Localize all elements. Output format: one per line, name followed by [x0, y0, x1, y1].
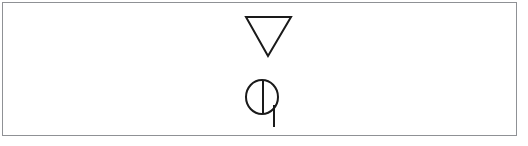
- scan-edge-right: [518, 0, 528, 146]
- panel-frame: [2, 2, 517, 136]
- scan-edge-left: [0, 0, 2, 146]
- symbol-panel-canvas: [0, 0, 528, 146]
- scan-edge-bottom: [0, 137, 528, 146]
- scan-edge-top: [0, 0, 528, 2]
